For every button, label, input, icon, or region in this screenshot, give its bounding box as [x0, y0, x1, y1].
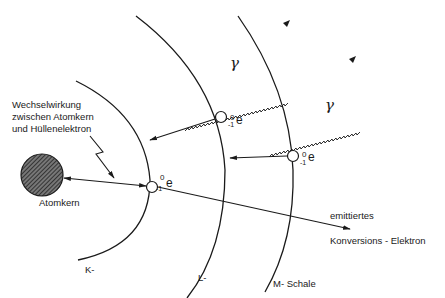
svg-text:-1: -1 — [228, 121, 234, 128]
gamma-arrowhead-lower — [349, 56, 356, 63]
electron-m — [288, 151, 299, 162]
svg-text:e: e — [308, 150, 315, 164]
svg-text:e: e — [236, 113, 243, 127]
emitted-label-line1: emittiertes — [330, 210, 374, 221]
l-shell-label: L- — [198, 272, 206, 283]
k-shell-arc — [76, 81, 150, 260]
svg-text:0: 0 — [302, 150, 307, 159]
m-to-l-transition-arrow — [230, 156, 287, 158]
gamma-arrowhead-upper — [283, 20, 290, 27]
emitted-label-line2: Konversions - Elektron — [330, 235, 426, 246]
nucleus — [21, 154, 63, 196]
interaction-arrow — [64, 178, 146, 186]
gamma-label-upper: γ — [230, 54, 239, 72]
interaction-label-line2: zwischen Atomkern — [12, 111, 94, 122]
nucleus-label: Atomkern — [39, 197, 80, 208]
l-shell-arc — [136, 16, 225, 298]
internal-conversion-diagram: 0 -1 e 0 -1 e 0 -1 e γ γ Wechselwirkung … — [0, 0, 445, 298]
k-shell-label: K- — [85, 264, 95, 275]
electron-symbol-m: 0 -1 e — [300, 150, 315, 166]
svg-text:-1: -1 — [156, 185, 162, 192]
electron-symbol-k: 0 -1 e — [156, 173, 173, 192]
electron-l — [216, 112, 227, 123]
m-shell-arc — [238, 16, 293, 292]
interaction-zigzag-pointer — [90, 136, 114, 178]
svg-text:e: e — [166, 176, 173, 190]
svg-text:-1: -1 — [300, 159, 306, 166]
interaction-label-line3: und Hüllenelektron — [12, 123, 91, 134]
electron-symbol-l: 0 -1 e — [228, 113, 243, 128]
svg-text:0: 0 — [160, 173, 165, 182]
m-shell-label: M- Schale — [273, 278, 316, 289]
gamma-label-lower: γ — [325, 96, 334, 114]
conversion-electron-path — [158, 187, 350, 229]
interaction-label-line1: Wechselwirkung — [12, 99, 81, 110]
l-to-k-transition-arrow — [150, 119, 215, 140]
